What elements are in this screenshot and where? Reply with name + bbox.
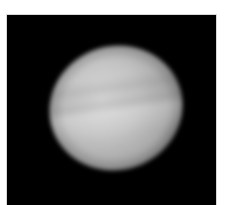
image-frame bbox=[6, 14, 217, 204]
planet-disk bbox=[33, 28, 199, 187]
planet-dark-band bbox=[33, 28, 199, 187]
